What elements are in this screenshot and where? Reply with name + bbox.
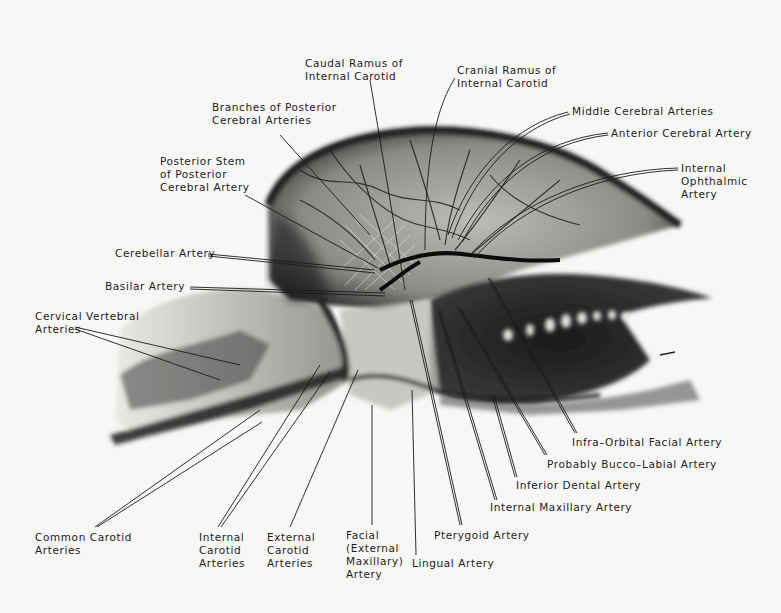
- label-bucco-labial: Probably Bucco–Labial Artery: [547, 458, 717, 471]
- label-cerebellar: Cerebellar Artery: [115, 247, 215, 260]
- arteriogram-figure: [0, 0, 781, 613]
- label-facial: Facial (External Maxillary) Artery: [346, 529, 404, 581]
- label-inferior-dental: Inferior Dental Artery: [516, 479, 641, 492]
- label-anterior-cerebral: Anterior Cerebral Artery: [611, 127, 752, 140]
- label-external-carotid: External Carotid Arteries: [267, 531, 315, 570]
- label-branches-posterior-cerebral: Branches of Posterior Cerebral Arteries: [212, 101, 337, 127]
- label-cranial-ramus: Cranial Ramus of Internal Carotid: [457, 64, 556, 90]
- neck-region: [110, 289, 350, 445]
- label-caudal-ramus: Caudal Ramus of Internal Carotid: [305, 57, 403, 83]
- jaw-region: [430, 274, 712, 415]
- label-basilar: Basilar Artery: [105, 280, 185, 293]
- label-lingual: Lingual Artery: [412, 557, 494, 570]
- label-middle-cerebral: Middle Cerebral Arteries: [572, 105, 714, 118]
- label-cervical-vertebral: Cervical Vertebral Arteries: [35, 310, 140, 336]
- label-internal-ophthalmic: Internal Ophthalmic Artery: [681, 162, 748, 201]
- label-common-carotid: Common Carotid Arteries: [35, 531, 132, 557]
- label-internal-carotid: Internal Carotid Arteries: [199, 531, 245, 570]
- label-internal-maxillary: Internal Maxillary Artery: [490, 501, 632, 514]
- label-posterior-stem: Posterior Stem of Posterior Cerebral Art…: [160, 155, 250, 194]
- label-pterygoid: Pterygoid Artery: [434, 529, 530, 542]
- label-infra-orbital: Infra–Orbital Facial Artery: [572, 436, 722, 449]
